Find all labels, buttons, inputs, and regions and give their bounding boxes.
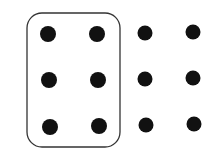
dot — [138, 26, 153, 41]
dot — [41, 72, 57, 88]
dot — [186, 25, 201, 40]
dot-grid-diagram — [0, 0, 218, 161]
dot — [40, 26, 56, 42]
dot — [186, 71, 201, 86]
dot — [139, 118, 154, 133]
dot — [187, 117, 202, 132]
dot — [91, 118, 107, 134]
dot — [90, 72, 106, 88]
dot — [138, 72, 153, 87]
dot — [42, 119, 58, 135]
dot — [89, 26, 105, 42]
dots — [40, 25, 202, 136]
